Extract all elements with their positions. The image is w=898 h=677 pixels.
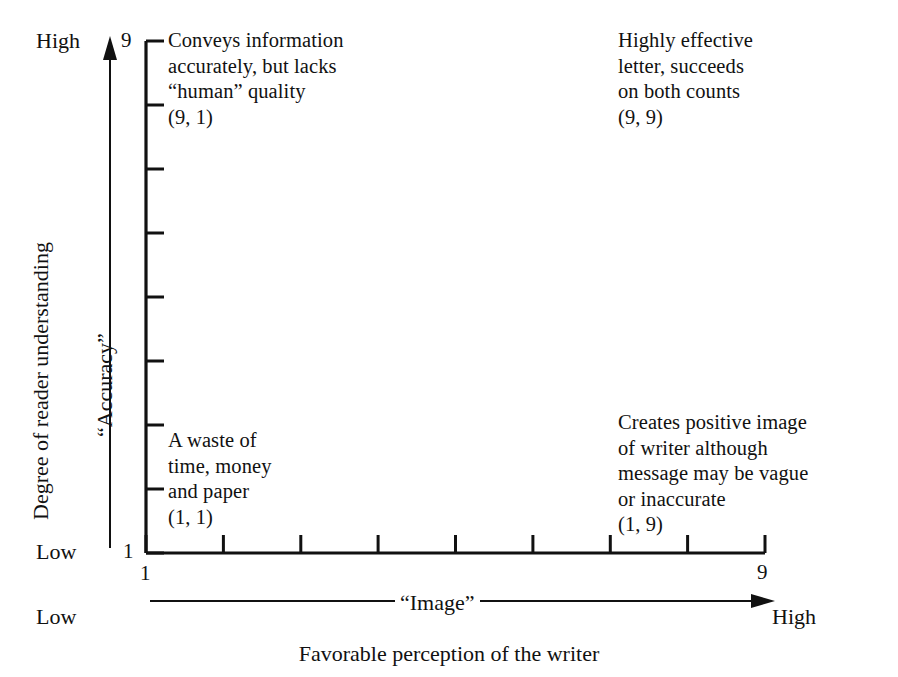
y-axis-outer-title: Degree of reader understanding	[30, 242, 52, 520]
quadrant-chart: Conveys information accurately, but lack…	[0, 0, 898, 677]
annotation-bottom-right: Creates positive image of writer althoug…	[618, 410, 808, 538]
y-axis-high-label: High	[36, 30, 80, 52]
y-axis-max-tick-label: 9	[121, 30, 132, 51]
y-axis-min-tick-label: 1	[123, 541, 134, 562]
annotation-top-right: Highly effective letter, succeeds on bot…	[618, 28, 753, 130]
annotation-top-left: Conveys information accurately, but lack…	[168, 28, 344, 130]
x-axis-inner-title: “Image”	[395, 592, 480, 614]
accuracy-arrow	[103, 36, 117, 548]
x-axis-min-tick-label: 1	[140, 563, 151, 584]
annotation-bottom-left: A waste of time, money and paper (1, 1)	[168, 428, 272, 530]
x-axis-low-label: Low	[36, 606, 76, 628]
y-axis-ticks	[146, 41, 164, 553]
x-axis-max-tick-label: 9	[757, 562, 768, 583]
x-axis-ticks	[146, 535, 765, 553]
y-axis-low-label: Low	[36, 541, 76, 563]
y-axis-inner-title: “Accuracy”	[94, 333, 116, 437]
x-axis-high-label: High	[772, 606, 816, 628]
chart-caption: Favorable perception of the writer	[0, 641, 898, 667]
